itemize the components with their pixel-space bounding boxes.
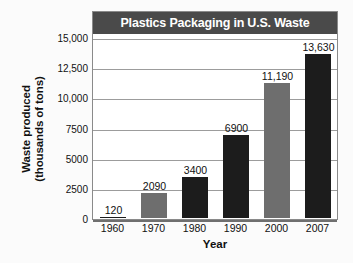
x-tick-label-1970: 1970 [133, 222, 174, 234]
bar-group-2000[interactable]: 11,190 [257, 34, 298, 219]
y-tick-label-2500: 2500 [34, 183, 88, 194]
bars-layer: 12020903400690011,19013,630 [93, 34, 337, 219]
bar-group-1990[interactable]: 6900 [216, 34, 257, 219]
bar-2007[interactable] [305, 54, 331, 218]
x-tick-label-1980: 1980 [174, 222, 215, 234]
x-tick-label-2000: 2000 [256, 222, 297, 234]
x-axis-tick-labels: 196019701980199020002007 [92, 222, 338, 238]
bar-group-2007[interactable]: 13,630 [298, 34, 339, 219]
bar-1990[interactable] [223, 135, 249, 218]
y-tick-label-10000: 10,000 [34, 93, 88, 104]
y-tick-label-15000: 15,000 [34, 33, 88, 44]
bar-2000[interactable] [264, 83, 290, 218]
y-tick-label-12500: 12,500 [34, 63, 88, 74]
bar-group-1970[interactable]: 2090 [134, 34, 175, 219]
y-tick-label-0: 0 [34, 214, 88, 225]
bar-1970[interactable] [141, 193, 167, 218]
chart-title: Plastics Packaging in U.S. Waste [120, 16, 309, 30]
bar-value-label-2007: 13,630 [290, 41, 347, 53]
y-axis-tick-labels: 025005000750010,00012,50015,000 [34, 0, 88, 263]
plot-frame: Plastics Packaging in U.S. Waste 1202090… [92, 11, 338, 220]
bar-1980[interactable] [182, 177, 208, 218]
chart-title-band: Plastics Packaging in U.S. Waste [93, 12, 337, 34]
y-tick-label-7500: 7500 [34, 123, 88, 134]
plot-area: 12020903400690011,19013,630 [93, 34, 337, 219]
x-tick-label-1960: 1960 [92, 222, 133, 234]
y-axis-title-line1: Waste produced [20, 85, 33, 173]
bar-1960[interactable] [100, 217, 126, 219]
x-axis-title: Year [92, 238, 338, 250]
x-tick-label-1990: 1990 [215, 222, 256, 234]
y-tick-label-5000: 5000 [34, 153, 88, 164]
bar-chart-figure: Waste produced (thousands of tons) 02500… [0, 0, 353, 263]
x-tick-label-2007: 2007 [297, 222, 338, 234]
